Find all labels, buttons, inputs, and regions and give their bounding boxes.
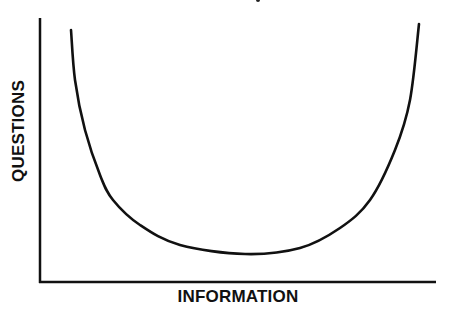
x-axis-label: INFORMATION [40,287,436,307]
chart-canvas [0,0,452,321]
u-curve-line [71,24,419,254]
scan-artifact-dot [256,0,260,2]
y-axis-label: QUESTIONS [9,80,29,182]
y-axis-label-container: QUESTIONS [6,58,32,204]
